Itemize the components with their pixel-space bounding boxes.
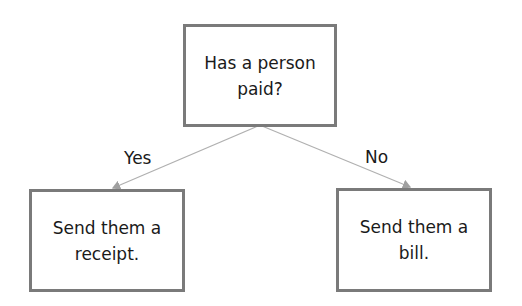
no-action-node: Send them a bill.: [336, 188, 492, 292]
question-text: Has a person paid?: [194, 50, 326, 102]
edge-label-yes: Yes: [124, 148, 151, 168]
yes-action-node: Send them a receipt.: [29, 189, 185, 292]
question-node: Has a person paid?: [183, 24, 337, 127]
yes-action-text: Send them a receipt.: [40, 215, 174, 267]
no-action-text: Send them a bill.: [347, 214, 481, 266]
edge-label-no: No: [365, 147, 388, 167]
